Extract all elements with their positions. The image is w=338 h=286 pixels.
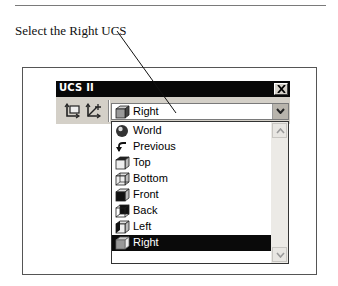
- cube-left-icon: [115, 220, 130, 234]
- list-item-previous[interactable]: Previous: [112, 139, 272, 155]
- cube-right-icon: [115, 236, 130, 250]
- ucs-view-combobox[interactable]: Right: [111, 103, 289, 120]
- combo-dropdown-button[interactable]: [272, 104, 288, 119]
- list-item-front[interactable]: Front: [112, 187, 272, 203]
- list-item-bottom[interactable]: Bottom: [112, 171, 272, 187]
- cube-bottom-icon: [115, 172, 130, 186]
- chevron-down-icon: [276, 108, 285, 114]
- close-icon: [277, 85, 286, 93]
- chevron-up-icon: [276, 128, 285, 134]
- ucs-move-icon: [85, 103, 103, 119]
- cube-top-icon: [115, 156, 130, 170]
- ucs-display-button[interactable]: [64, 103, 82, 119]
- dropdown-scrollbar[interactable]: [271, 122, 288, 263]
- caption: Select the Right UCS: [15, 23, 127, 39]
- scroll-down-button[interactable]: [272, 247, 287, 262]
- titlebar[interactable]: UCS II: [56, 81, 290, 97]
- window-title: UCS II: [59, 82, 94, 93]
- list-item-top[interactable]: Top: [112, 155, 272, 171]
- ucs-ii-toolbar-window: UCS II Right: [56, 81, 290, 124]
- ucs-display-icon: [64, 103, 82, 119]
- list-item-world[interactable]: World: [112, 123, 272, 139]
- chevron-down-icon: [276, 252, 285, 258]
- globe-icon: [115, 124, 130, 138]
- cube-right-face-icon: [115, 105, 130, 119]
- list-item-right[interactable]: Right: [112, 235, 272, 251]
- ucs-move-button[interactable]: [85, 103, 103, 119]
- cube-front-icon: [115, 188, 130, 202]
- scroll-up-button[interactable]: [272, 123, 287, 138]
- combo-selected-value: Right: [133, 105, 159, 117]
- ucs-dropdown-list: World Previous Top Bottom Front Back Lef…: [111, 121, 289, 264]
- close-button[interactable]: [274, 83, 288, 95]
- list-item-back[interactable]: Back: [112, 203, 272, 219]
- top-rule: [15, 5, 326, 6]
- list-item-left[interactable]: Left: [112, 219, 272, 235]
- toolbar-separator: [108, 100, 110, 122]
- cube-back-icon: [115, 204, 130, 218]
- undo-arrow-icon: [115, 140, 130, 154]
